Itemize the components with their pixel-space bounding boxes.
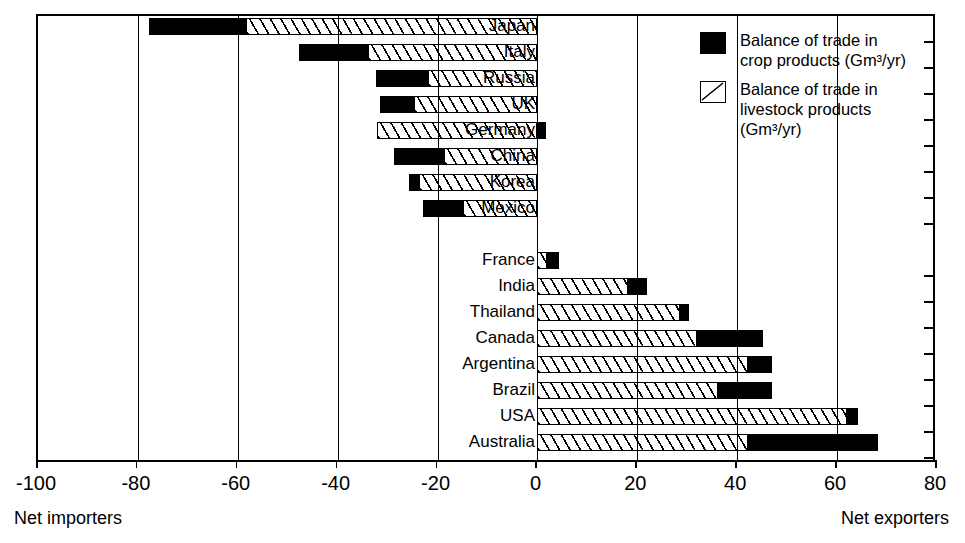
category-label-mexico: Mexico (440, 199, 535, 216)
row-tick (924, 327, 933, 329)
bar-segment-crop (299, 44, 368, 61)
axis-tick--60 (236, 460, 238, 468)
bar-segment-crop (547, 252, 559, 269)
category-label-china: China (440, 147, 535, 164)
chart-figure: Net importers Net exporters Balance of t… (0, 0, 965, 543)
bar-segment-crop (680, 304, 689, 321)
axis-tick-label-80: 80 (895, 472, 965, 494)
bar-segment-crop (718, 382, 772, 399)
legend-label-livestock-line3: (Gm³/yr) (740, 119, 950, 139)
chart-legend: Balance of trade in crop products (Gm³/y… (700, 30, 950, 148)
axis-tick-40 (735, 460, 737, 468)
row-tick (924, 431, 933, 433)
category-label-france: France (440, 251, 535, 268)
category-label-japan: Japan (440, 17, 535, 34)
bar-segment-livestock (537, 330, 697, 347)
annotation-net-importers: Net importers (14, 508, 122, 528)
axis-tick-label-40: 40 (695, 472, 775, 494)
bar-segment-crop (847, 408, 858, 425)
category-label-canada: Canada (440, 329, 535, 346)
legend-label-livestock-line1: Balance of trade in (740, 79, 950, 99)
gridline--20 (438, 16, 439, 461)
annotation-net-exporters: Net exporters (841, 508, 949, 528)
zero-line (537, 16, 538, 461)
legend-swatch-livestock-icon (700, 81, 726, 103)
axis-tick-label-20: 20 (595, 472, 675, 494)
axis-tick-label--80: -80 (96, 472, 176, 494)
x-axis-line (36, 460, 935, 462)
axis-tick-label--20: -20 (396, 472, 476, 494)
legend-item-livestock: Balance of trade in livestock products (… (700, 79, 950, 139)
row-tick (924, 379, 933, 381)
row-tick (924, 197, 933, 199)
row-tick (924, 275, 933, 277)
bar-segment-crop (748, 356, 772, 373)
row-tick (924, 353, 933, 355)
legend-item-crop: Balance of trade in crop products (Gm³/y… (700, 30, 950, 70)
bar-segment-crop (409, 174, 419, 191)
axis-tick-20 (635, 460, 637, 468)
bar-segment-livestock (537, 382, 718, 399)
category-label-korea: Korea (440, 173, 535, 190)
row-tick (924, 171, 933, 173)
bar-segment-crop (748, 434, 878, 451)
axis-tick--40 (336, 460, 338, 468)
category-label-australia: Australia (440, 433, 535, 450)
axis-tick-label--40: -40 (296, 472, 376, 494)
category-label-russia: Russia (440, 69, 535, 86)
bar-segment-crop (697, 330, 763, 347)
category-label-brazil: Brazil (440, 381, 535, 398)
row-tick (924, 405, 933, 407)
category-label-germany: Germany (440, 121, 535, 138)
category-label-argentina: Argentina (440, 355, 535, 372)
bar-segment-crop (380, 96, 414, 113)
bar-segment-livestock (537, 408, 847, 425)
legend-label-crop-line1: Balance of trade in (740, 30, 950, 50)
gridline--60 (238, 16, 239, 461)
gridline-20 (637, 16, 638, 461)
bar-segment-livestock (537, 356, 748, 373)
gridline--80 (138, 16, 139, 461)
axis-tick-label--60: -60 (196, 472, 276, 494)
bar-segment-crop (537, 122, 545, 139)
bar-segment-livestock (537, 252, 547, 269)
axis-tick--20 (436, 460, 438, 468)
category-label-usa: USA (440, 407, 535, 424)
category-label-uk: UK (440, 95, 535, 112)
bar-segment-livestock (537, 434, 748, 451)
row-tick (924, 457, 933, 459)
bar-segment-crop (149, 18, 246, 35)
axis-tick-label-0: 0 (495, 472, 575, 494)
bar-segment-crop (394, 148, 444, 165)
axis-tick-0 (535, 460, 537, 468)
bar-segment-crop (376, 70, 428, 87)
axis-tick-label-60: 60 (795, 472, 875, 494)
legend-label-crop-line2: crop products (Gm³/yr) (740, 50, 950, 70)
bar-segment-livestock (537, 278, 628, 295)
gridline--40 (338, 16, 339, 461)
bar-row-spacer (38, 226, 933, 252)
bar-segment-livestock (537, 304, 680, 321)
axis-tick--100 (36, 460, 38, 468)
axis-tick-label--100: -100 (0, 472, 76, 494)
row-tick (924, 223, 933, 225)
category-label-thailand: Thailand (440, 303, 535, 320)
axis-tick-80 (935, 460, 937, 468)
axis-tick-60 (835, 460, 837, 468)
legend-swatch-crop-icon (700, 32, 726, 54)
axis-tick--80 (136, 460, 138, 468)
legend-label-livestock-line2: livestock products (740, 99, 950, 119)
category-label-italy: Italy (440, 43, 535, 60)
row-tick (924, 301, 933, 303)
category-label-india: India (440, 277, 535, 294)
